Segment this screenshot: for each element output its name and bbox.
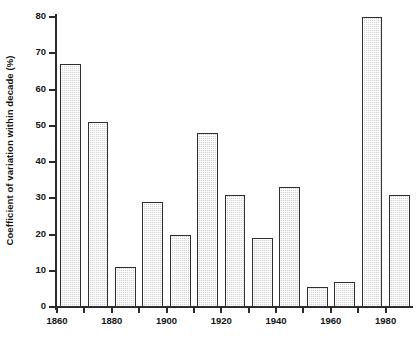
bar xyxy=(389,195,410,307)
bar xyxy=(225,195,246,307)
bar xyxy=(170,235,191,308)
bar xyxy=(197,133,218,307)
bar xyxy=(252,238,273,307)
bar xyxy=(88,122,109,307)
bar xyxy=(307,287,328,307)
bar xyxy=(334,282,355,307)
bar xyxy=(142,202,163,307)
bar xyxy=(60,64,81,307)
bar xyxy=(279,187,300,307)
bar-chart-figure: Coefficient of variation within decade (… xyxy=(0,0,418,341)
bar xyxy=(115,267,136,307)
bar-series xyxy=(0,0,418,341)
bar xyxy=(362,17,383,307)
